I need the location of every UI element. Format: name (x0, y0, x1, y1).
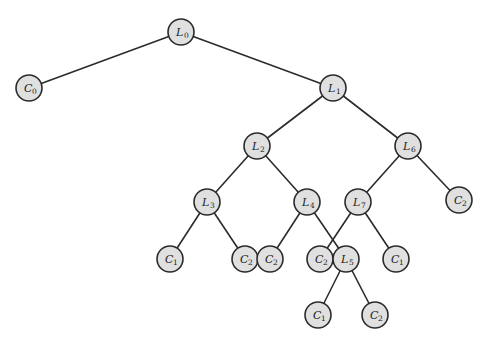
tree-node-L2: L2 (244, 133, 270, 159)
node-subscript: 1 (336, 87, 341, 96)
tree-node-C2c: C2 (257, 246, 283, 272)
node-subscript: 0 (32, 87, 37, 96)
node-subscript: 1 (321, 314, 326, 323)
tree-node-L7: L7 (345, 189, 371, 215)
tree-node-C2b: C2 (232, 246, 258, 272)
tree-node-C1c: C1 (305, 302, 331, 328)
edge-L1-L6 (333, 88, 408, 146)
node-subscript: 2 (462, 199, 467, 208)
node-label: L (340, 253, 348, 266)
node-label: L (251, 140, 259, 153)
node-subscript: 0 (184, 31, 189, 40)
edge-L0-L1 (181, 32, 333, 88)
tree-node-C1b: C1 (383, 246, 409, 272)
tree-node-C2d: C2 (307, 246, 333, 272)
tree-node-L5: L5 (333, 246, 359, 272)
node-label: L (402, 140, 410, 153)
node-subscript: 5 (349, 258, 354, 267)
node-label: L (301, 196, 309, 209)
node-label: L (201, 196, 209, 209)
node-subscript: 1 (399, 258, 404, 267)
tree-node-C2a: C2 (446, 187, 472, 213)
node-subscript: 2 (273, 258, 278, 267)
tree-node-L0: L0 (168, 19, 194, 45)
node-subscript: 6 (411, 145, 416, 154)
tree-node-C2e: C2 (362, 302, 388, 328)
tree-node-L1: L1 (320, 75, 346, 101)
node-subscript: 7 (361, 201, 366, 210)
tree-node-L6: L6 (395, 133, 421, 159)
node-subscript: 4 (310, 201, 315, 210)
node-label: L (175, 26, 183, 39)
tree-nodes: L0C0L1L2L6L3L4L7C2C1C2C2C2L5C1C1C2 (16, 19, 472, 328)
tree-node-L3: L3 (194, 189, 220, 215)
tree-node-C1a: C1 (157, 246, 183, 272)
tree-node-C0: C0 (16, 75, 42, 101)
edge-L1-L2 (257, 88, 333, 146)
node-subscript: 2 (248, 258, 253, 267)
node-subscript: 1 (173, 258, 178, 267)
node-label: L (352, 196, 360, 209)
node-subscript: 3 (210, 201, 215, 210)
node-label: L (327, 82, 335, 95)
edge-L0-C0 (29, 32, 181, 88)
tree-diagram: L0C0L1L2L6L3L4L7C2C1C2C2C2L5C1C1C2 (0, 0, 492, 349)
node-subscript: 2 (260, 145, 265, 154)
tree-node-L4: L4 (294, 189, 320, 215)
node-subscript: 2 (378, 314, 383, 323)
node-subscript: 2 (323, 258, 328, 267)
